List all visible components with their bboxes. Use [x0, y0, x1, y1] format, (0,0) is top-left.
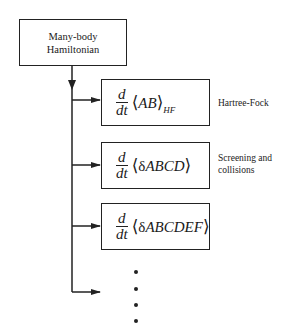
left-angle-bracket: ⟨ [132, 155, 139, 176]
many-body-hamiltonian-box: Many-body Hamiltonian [19, 19, 127, 66]
expectation-expression: ⟨ δ ABCDEF ⟩ [132, 216, 210, 237]
down-arrow-icon [68, 80, 76, 90]
right-angle-bracket: ⟩ [185, 155, 192, 176]
derivative-fraction: d dt [114, 87, 130, 118]
screening-collisions-label: Screening and collisions [218, 152, 272, 176]
subscript: HF [163, 105, 175, 115]
expectation-expression: ⟨ AB ⟩ HF [132, 92, 176, 113]
expression-body: AB [138, 95, 156, 112]
expression-body: ABCD [145, 158, 184, 175]
right-angle-bracket: ⟩ [203, 216, 210, 237]
label-line: Hartree-Fock [218, 97, 269, 109]
six-body-equation-box: d dt ⟨ δ ABCDEF ⟩ [101, 203, 210, 250]
root-label-line2: Hamiltonian [47, 43, 100, 56]
expectation-expression: ⟨ δ ABCD ⟩ [132, 155, 192, 176]
fraction-numerator: d [116, 211, 128, 227]
derivative-fraction: d dt [114, 150, 130, 181]
fraction-denominator: dt [114, 166, 130, 181]
label-line: Screening and [218, 152, 272, 164]
fraction-denominator: dt [114, 103, 130, 118]
expression-body: ABCDEF [145, 219, 203, 236]
ellipsis-dot [134, 319, 138, 323]
label-line: collisions [218, 164, 272, 176]
ellipsis-dot [134, 287, 138, 291]
root-label-line1: Many-body [49, 30, 98, 43]
fraction-denominator: dt [114, 227, 130, 242]
fraction-numerator: d [116, 150, 128, 166]
derivative-fraction: d dt [114, 211, 130, 242]
left-angle-bracket: ⟨ [132, 216, 139, 237]
ellipsis-dot [134, 303, 138, 307]
hartree-fock-equation-box: d dt ⟨ AB ⟩ HF [101, 79, 210, 126]
fraction-numerator: d [116, 87, 128, 103]
screening-equation-box: d dt ⟨ δ ABCD ⟩ [101, 142, 210, 189]
ellipsis-dot [134, 270, 138, 274]
hartree-fock-label: Hartree-Fock [218, 97, 269, 109]
